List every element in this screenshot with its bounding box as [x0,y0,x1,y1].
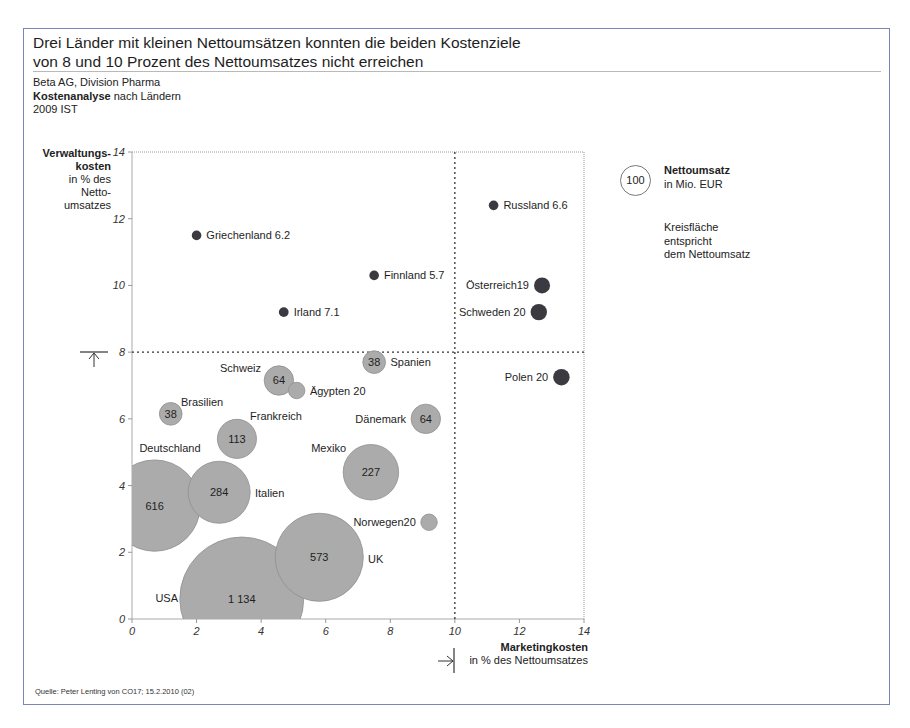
point-label: USA [155,592,178,604]
x-tick-label: 10 [449,625,462,637]
data-point-irland [279,307,289,317]
point-label: Griechenland 6.2 [206,229,290,241]
point-label: Schweiz [220,362,261,374]
y-tick-label: 14 [113,146,125,158]
y-tick-label: 12 [113,213,125,225]
data-point-finnland [369,271,379,281]
data-point-schweden [531,304,547,320]
point-label: Brasilien [181,396,223,408]
data-point-ägypten [288,382,304,398]
point-label: Italien [255,487,284,499]
x-tick-label: 0 [129,625,136,637]
point-label: UK [368,553,384,565]
x-tick-label: 12 [513,625,525,637]
point-label: Österreich19 [466,279,529,291]
x-tick-label: 4 [258,625,264,637]
point-label: Irland 7.1 [294,306,340,318]
point-label: Polen 20 [505,371,548,383]
point-label: Russland 6.6 [503,199,567,211]
data-point-polen [553,369,569,385]
data-point-griechenland [192,231,202,241]
bubble-value: 64 [273,374,285,386]
x-tick-label: 2 [193,625,200,637]
point-label: Frankreich [250,410,302,422]
bubble-value: 1 134 [228,593,256,605]
y-tick-label: 0 [119,613,126,625]
bubble-value: 113 [228,433,246,445]
x-tick-label: 8 [387,625,394,637]
x-tick-label: 6 [323,625,330,637]
y-tick-label: 4 [119,480,125,492]
point-label: Norwegen20 [353,516,415,528]
point-label: Spanien [390,356,430,368]
y-tick-label: 6 [119,413,126,425]
bubble-value: 64 [420,413,432,425]
point-label: Mexiko [311,442,346,454]
data-point-russland [489,201,499,211]
y-tick-label: 8 [119,346,126,358]
bubble-value: 38 [165,408,177,420]
point-label: Ägypten 20 [310,385,366,397]
bubble-value: 284 [210,486,228,498]
bubble-value: 616 [145,500,163,512]
x-tick-label: 14 [578,625,590,637]
point-label: Finnland 5.7 [384,269,445,281]
point-label: Deutschland [139,442,200,454]
bubble-value: 573 [310,551,328,563]
y-tick-label: 10 [113,279,126,291]
bubble-chart: 0246810121402468101214 1 134616573284227… [0,0,910,728]
data-point-norwegen [421,514,437,530]
bubble-layer [109,201,570,661]
data-point-österreich [534,277,550,293]
point-label: Schweden 20 [459,306,526,318]
bubble-value: 227 [362,466,380,478]
y-tick-label: 2 [118,546,125,558]
point-label: Dänemark [355,413,406,425]
bubble-value: 38 [368,356,380,368]
